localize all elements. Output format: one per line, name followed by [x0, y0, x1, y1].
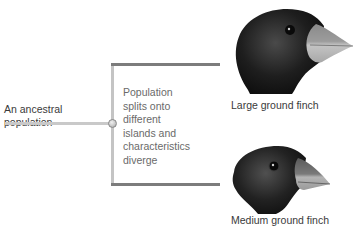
split-line-1: Population — [123, 86, 213, 100]
split-line-6: diverge — [123, 154, 213, 168]
split-line-3: different — [123, 113, 213, 127]
large-ground-finch-icon — [228, 2, 359, 94]
split-line-4: islands and — [123, 127, 213, 141]
large-ground-finch-label: Large ground finch — [231, 99, 319, 112]
ancestral-stem-line — [5, 122, 110, 125]
split-node — [108, 119, 117, 128]
ancestral-line-1: An ancestral — [4, 103, 104, 116]
branch-line-medium — [111, 183, 220, 186]
branch-line-large — [111, 63, 220, 66]
split-description: Population splits onto different islands… — [123, 86, 213, 167]
medium-ground-finch-icon — [230, 142, 340, 214]
split-line-2: splits onto — [123, 100, 213, 114]
split-line-5: characteristics — [123, 140, 213, 154]
medium-ground-finch-label: Medium ground finch — [231, 214, 329, 227]
